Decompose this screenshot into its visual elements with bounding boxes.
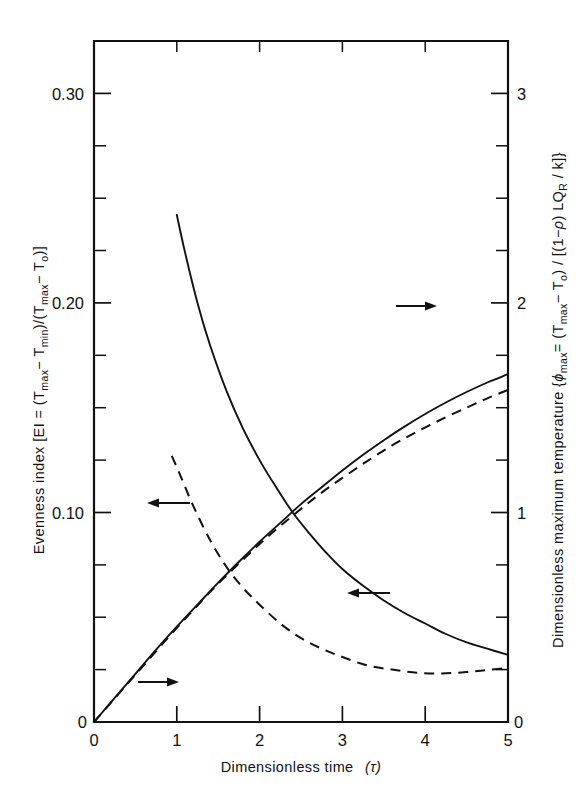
chart-svg: 0.30 0.20 0.10 0 3 2 1 0 0 1 2 3 4 5 Dim… [0, 0, 587, 797]
x-tick-label: 4 [421, 731, 430, 749]
svg-text:Dimensionless time (τ): Dimensionless time (τ) [221, 759, 382, 775]
x-tick-label: 2 [255, 731, 264, 749]
left-tick-label: 0.10 [52, 504, 84, 522]
x-axis-title-main: Dimensionless time [221, 759, 354, 775]
x-axis-title: Dimensionless time (τ) [221, 759, 382, 775]
right-tick-label: 1 [517, 504, 526, 522]
x-tick-label: 5 [503, 731, 512, 749]
left-tick-label: 0 [78, 713, 87, 731]
curve-phimax-solid-main [95, 42, 507, 721]
x-tick-label: 0 [89, 731, 98, 749]
right-axis-title: Dimensionless maximum temperature {ϕmax=… [550, 152, 569, 648]
right-tick-label: 3 [517, 85, 526, 103]
x-axis-title-symbol: (τ) [365, 759, 381, 775]
svg-text:Dimensionless maximum temperat: Dimensionless maximum temperature {ϕmax=… [550, 152, 569, 648]
x-tick-labels: 0 1 2 3 4 5 [89, 731, 512, 749]
left-tick-labels: 0.30 0.20 0.10 0 [52, 85, 87, 732]
left-tick-label: 0.20 [52, 294, 84, 312]
x-tick-label: 3 [338, 731, 347, 749]
right-tick-labels: 3 2 1 0 [514, 85, 526, 732]
left-axis-title: Evenness index [EI = (Tmax− Tmin)/(Tmax−… [31, 246, 50, 554]
right-tick-label: 0 [514, 713, 523, 731]
svg-text:Evenness index [EI = (Tmax− Tm: Evenness index [EI = (Tmax− Tmin)/(Tmax−… [31, 246, 50, 554]
figure-container: 0.30 0.20 0.10 0 3 2 1 0 0 1 2 3 4 5 Dim… [0, 0, 587, 797]
x-tick-label: 1 [172, 731, 181, 749]
left-tick-label: 0.30 [52, 85, 84, 103]
right-tick-label: 2 [517, 294, 526, 312]
